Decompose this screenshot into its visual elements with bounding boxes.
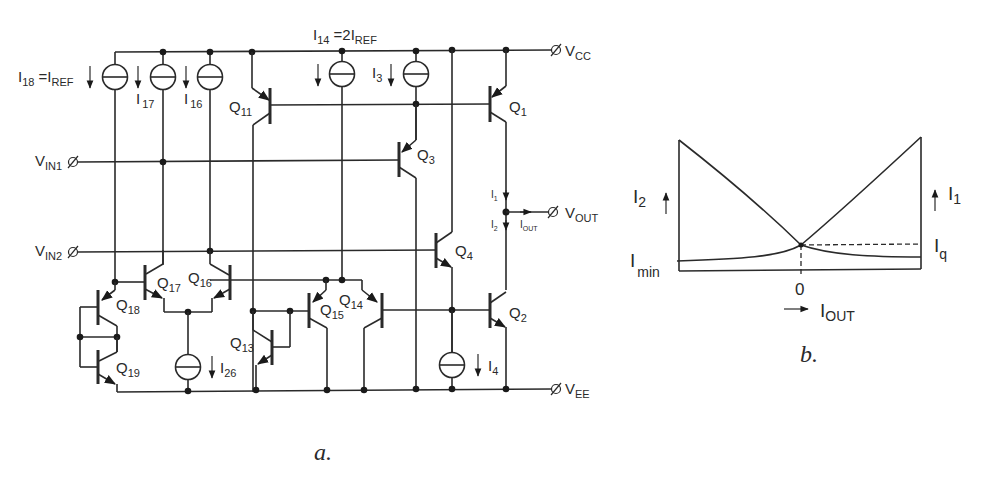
transistor-q15: [309, 280, 327, 390]
i4-label: I4: [488, 357, 498, 377]
q16-label: Q16: [188, 269, 212, 289]
caption-b: b.: [800, 341, 818, 367]
imin-chart-label: Imin: [630, 250, 660, 280]
iq-chart-label: Iq: [934, 235, 947, 262]
i17-label: I17: [136, 90, 154, 110]
vcc-label: VCC: [565, 42, 591, 62]
zero-tick-label: 0: [795, 280, 804, 299]
iout-label: IOUT: [520, 219, 538, 232]
i14-label: I14 =2IREF: [313, 26, 377, 46]
vin1-label: VIN1: [35, 152, 62, 172]
current-source-i18: [103, 52, 128, 285]
i2-chart-label: I2: [633, 186, 646, 210]
transistor-q18: [98, 282, 117, 352]
i18-label: I18 =IREF: [18, 68, 74, 88]
vee-label: VEE: [565, 380, 590, 400]
vee-terminal: [551, 383, 561, 395]
vin2-input[interactable]: [68, 246, 436, 258]
i1-chart-label: I1: [948, 183, 961, 207]
iout-chart-label: IOUT: [820, 300, 855, 324]
q17-label: Q17: [157, 274, 181, 294]
transistor-q14: [362, 280, 382, 390]
q13-label: Q13: [230, 334, 254, 354]
vin1-input[interactable]: [68, 156, 399, 168]
q11-label: Q11: [229, 98, 252, 118]
current-source-i4: [440, 310, 465, 389]
q3-label: Q3: [417, 146, 435, 166]
vin2-label: VIN2: [35, 242, 62, 262]
q4-label: Q4: [455, 242, 473, 262]
transistor-q16: [210, 251, 230, 312]
transistor-q19: [80, 337, 117, 392]
q19-label: Q19: [116, 359, 140, 379]
i16-label: I16: [184, 90, 202, 110]
q2-label: Q2: [509, 304, 527, 324]
transistor-q1: [490, 50, 506, 186]
bottom-axis: [679, 269, 921, 271]
transistor-q13: [253, 311, 290, 390]
vee-rail: [117, 389, 552, 392]
schematic-canvas: I14 =2IREF I18 =IREF I17 I16 I3 I4 I26 I…: [0, 0, 981, 488]
chart-panel-b: I2 I1 Iq Imin 0 IOUT b.: [630, 137, 961, 367]
caption-a: a.: [314, 439, 332, 465]
vcc-rail: [115, 50, 552, 52]
q1-label: Q1: [509, 98, 527, 118]
current-source-i17: [151, 52, 176, 265]
i3-label: I3: [372, 64, 382, 84]
q18-label: Q18: [116, 296, 140, 316]
i2-curve: [679, 140, 921, 257]
i1-label: I1: [491, 189, 498, 202]
i2-label: I2: [491, 219, 498, 232]
i26-label: I26: [220, 359, 236, 379]
current-source-i26: [176, 312, 201, 391]
vcc-terminal: [551, 44, 561, 56]
transistor-q11: [252, 52, 270, 392]
vout-terminal: [548, 206, 558, 218]
current-source-i16: [198, 52, 223, 250]
q14-label: Q14: [339, 291, 363, 311]
vout-label: VOUT: [565, 204, 599, 224]
current-source-i14: [330, 51, 355, 280]
transistor-q3: [399, 104, 416, 390]
circuit-panel-a: I14 =2IREF I18 =IREF I17 I16 I3 I4 I26 I…: [18, 26, 599, 465]
transistor-q4: [436, 232, 452, 352]
q11-q1-base-line: [270, 104, 490, 105]
iq-dashed-line: [801, 244, 921, 245]
